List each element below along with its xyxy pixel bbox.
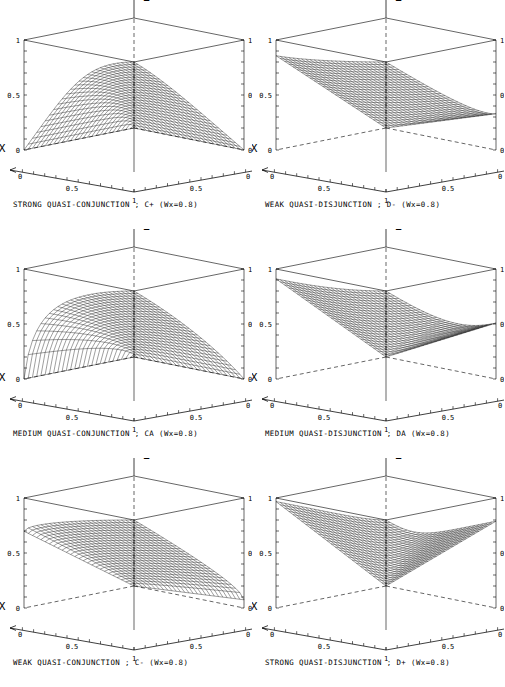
- y-tick-0.5: 0.5: [442, 414, 455, 422]
- z-left-tick-0.5: 0.5: [259, 550, 272, 558]
- plot-area: XYZ00.5100.5100.510.50: [252, 0, 504, 205]
- panel-medium-quasi-disjunction: XYZ00.5100.5100.510.50MEDIUM QUASI-DISJU…: [252, 229, 504, 458]
- panel-caption: WEAK QUASI-DISJUNCTION ; D- (Wx=0.8): [252, 200, 504, 209]
- plot-area: XYZ00.5100.5100.510.50: [0, 229, 252, 434]
- z-left-tick-1: 1: [16, 37, 20, 45]
- panel-caption: WEAK QUASI-CONJUNCTION ; C- (Wx=0.8): [0, 658, 252, 667]
- z-left-tick-1: 1: [268, 495, 272, 503]
- z-left-tick-0: 0: [16, 376, 20, 384]
- panel-caption: STRONG QUASI-DISJUNCTION ; D+ (Wx=0.8): [252, 658, 504, 667]
- z-left-tick-0: 0: [268, 147, 272, 155]
- x-tick-0.5: 0.5: [66, 185, 79, 193]
- z-left-tick-0.5: 0.5: [259, 321, 272, 329]
- floor-axes: [10, 626, 252, 650]
- x-axis-label: X: [252, 371, 258, 384]
- floor-axes: [10, 397, 252, 421]
- panel-caption-text: MEDIUM QUASI-DISJUNCTION ; DA (Wx=0.8): [252, 429, 450, 438]
- plot-area: XYZ00.5100.5100.510.50: [0, 458, 252, 663]
- x-tick-0: 0: [270, 402, 274, 410]
- y-tick-0: 0: [246, 402, 250, 410]
- x-tick-0.5: 0.5: [66, 643, 79, 651]
- panel-caption: MEDIUM QUASI-CONJUNCTION ; CA (Wx=0.8): [0, 429, 252, 438]
- panel-strong-quasi-disjunction: XYZ00.5100.5100.510.50STRONG QUASI-DISJU…: [252, 458, 504, 687]
- z-axis-label: Z: [143, 458, 150, 462]
- plot-area: XYZ00.5100.5100.510.50: [0, 0, 252, 205]
- panel-caption-text: MEDIUM QUASI-CONJUNCTION ; CA (Wx=0.8): [0, 429, 198, 438]
- panel-medium-quasi-conjunction: XYZ00.5100.5100.510.50MEDIUM QUASI-CONJU…: [0, 229, 252, 458]
- z-left-tick-0.5: 0.5: [259, 92, 272, 100]
- z-axis-label: Z: [143, 0, 150, 4]
- floor-axes: [262, 397, 504, 421]
- z-left-tick-1: 1: [268, 266, 272, 274]
- panel-caption-text: WEAK QUASI-DISJUNCTION ; D- (Wx=0.8): [252, 200, 440, 209]
- z-left-tick-0: 0: [16, 147, 20, 155]
- x-axis-label: X: [0, 600, 6, 613]
- x-tick-0.5: 0.5: [318, 185, 331, 193]
- y-tick-0.5: 0.5: [190, 185, 203, 193]
- y-tick-0.5: 0.5: [442, 185, 455, 193]
- z-left-tick-0.5: 0.5: [7, 92, 20, 100]
- y-tick-0: 0: [246, 631, 250, 639]
- z-axis-label: Z: [143, 229, 150, 233]
- z-right-tick-1: 1: [500, 37, 504, 45]
- z-axis-label: Z: [395, 458, 402, 462]
- x-axis-label: X: [252, 142, 258, 155]
- z-right-tick-0.5: 0.5: [500, 550, 504, 558]
- z-right-tick-0: 0: [500, 376, 504, 384]
- x-axis-label: X: [0, 142, 6, 155]
- z-right-tick-0: 0: [500, 605, 504, 613]
- floor-axes: [262, 168, 504, 192]
- x-axis-label: X: [0, 371, 6, 384]
- z-axis-label: Z: [395, 0, 402, 4]
- x-tick-0: 0: [18, 173, 22, 181]
- x-tick-0.5: 0.5: [318, 643, 331, 651]
- plot-area: XYZ00.5100.5100.510.50: [252, 229, 504, 434]
- panel-weak-quasi-disjunction: XYZ00.5100.5100.510.50WEAK QUASI-DISJUNC…: [252, 0, 504, 229]
- z-left-tick-0: 0: [268, 605, 272, 613]
- axis-labels: XYZ00.5100.5100.510.50: [0, 0, 252, 205]
- z-right-tick-0.5: 0.5: [500, 92, 504, 100]
- x-tick-0: 0: [270, 173, 274, 181]
- y-tick-0.5: 0.5: [190, 414, 203, 422]
- y-tick-0: 0: [246, 173, 250, 181]
- z-left-tick-1: 1: [16, 495, 20, 503]
- y-tick-0: 0: [498, 173, 502, 181]
- figure-multi-panel-surface-grid: XYZ00.5100.5100.510.50STRONG QUASI-CONJU…: [0, 0, 505, 687]
- panel-strong-quasi-conjunction: XYZ00.5100.5100.510.50STRONG QUASI-CONJU…: [0, 0, 252, 229]
- y-tick-0: 0: [498, 402, 502, 410]
- panel-weak-quasi-conjunction: XYZ00.5100.5100.510.50WEAK QUASI-CONJUNC…: [0, 458, 252, 687]
- y-tick-0.5: 0.5: [190, 643, 203, 651]
- z-left-tick-0.5: 0.5: [7, 550, 20, 558]
- z-right-tick-1: 1: [500, 495, 504, 503]
- z-left-tick-1: 1: [268, 37, 272, 45]
- x-axis-label: X: [252, 600, 258, 613]
- floor-axes: [10, 168, 252, 192]
- z-left-tick-1: 1: [16, 266, 20, 274]
- z-axis-label: Z: [395, 229, 402, 233]
- x-tick-0.5: 0.5: [318, 414, 331, 422]
- x-tick-0: 0: [270, 631, 274, 639]
- z-right-tick-0: 0: [500, 147, 504, 155]
- axis-labels: XYZ00.5100.5100.510.50: [0, 229, 252, 434]
- panel-caption-text: WEAK QUASI-CONJUNCTION ; C- (Wx=0.8): [0, 658, 188, 667]
- x-tick-0.5: 0.5: [66, 414, 79, 422]
- panel-caption: MEDIUM QUASI-DISJUNCTION ; DA (Wx=0.8): [252, 429, 504, 438]
- z-left-tick-0: 0: [16, 605, 20, 613]
- z-left-tick-0.5: 0.5: [7, 321, 20, 329]
- panel-caption: STRONG QUASI-CONJUNCTION ; C+ (Wx=0.8): [0, 200, 252, 209]
- y-tick-0: 0: [498, 631, 502, 639]
- floor-axes: [262, 626, 504, 650]
- x-tick-0: 0: [18, 402, 22, 410]
- x-tick-0: 0: [18, 631, 22, 639]
- plot-area: XYZ00.5100.5100.510.50: [252, 458, 504, 663]
- panel-caption-text: STRONG QUASI-CONJUNCTION ; C+ (Wx=0.8): [0, 200, 198, 209]
- panel-caption-text: STRONG QUASI-DISJUNCTION ; D+ (Wx=0.8): [252, 658, 450, 667]
- z-right-tick-0.5: 0.5: [500, 321, 504, 329]
- z-left-tick-0: 0: [268, 376, 272, 384]
- z-right-tick-1: 1: [500, 266, 504, 274]
- y-tick-0.5: 0.5: [442, 643, 455, 651]
